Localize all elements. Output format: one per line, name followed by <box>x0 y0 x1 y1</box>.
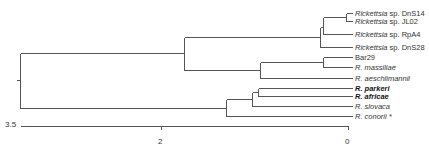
leaf-rest: sp. JL02 <box>388 17 418 26</box>
leaf-genus: Rickettsia <box>355 17 388 26</box>
leaf-label-africae: R. africae <box>355 92 389 101</box>
leaf-label-aeschlimannii: R. aeschlimannii <box>355 74 410 83</box>
leaf-species: R. massiliae <box>355 63 396 72</box>
leaf-genus: Rickettsia <box>355 30 388 39</box>
axis-tick-label-2: 2 <box>158 137 162 146</box>
leaf-species: R. africae <box>355 92 389 101</box>
leaf-label-slovaca: R. slovaca <box>355 102 390 111</box>
leaf-rest: sp. RpA4 <box>388 30 421 39</box>
leaf-label-dns28: Rickettsia sp. DnS28 <box>355 43 425 52</box>
leaf-species: R. conorii * <box>355 112 392 121</box>
leaf-label-jl02: Rickettsia sp. JL02 <box>355 17 418 26</box>
leaf-species: R. slovaca <box>355 102 390 111</box>
leaf-rest: sp. DnS28 <box>388 43 425 52</box>
leaf-label-massiliae: R. massiliae <box>355 63 396 72</box>
leaf-label-bar29: Bar29 <box>355 53 375 62</box>
leaf-label-rpa4: Rickettsia sp. RpA4 <box>355 30 420 39</box>
axis-tick-label-0: 0 <box>345 137 349 146</box>
leaf-species: R. aeschlimannii <box>355 74 410 83</box>
leaf-genus: Rickettsia <box>355 43 388 52</box>
scale-axis <box>21 127 349 130</box>
axis-tick-label-3-5: 3.5 <box>5 120 16 129</box>
leaf-label-conorii: R. conorii * <box>355 112 392 121</box>
tree-branches <box>17 14 353 117</box>
